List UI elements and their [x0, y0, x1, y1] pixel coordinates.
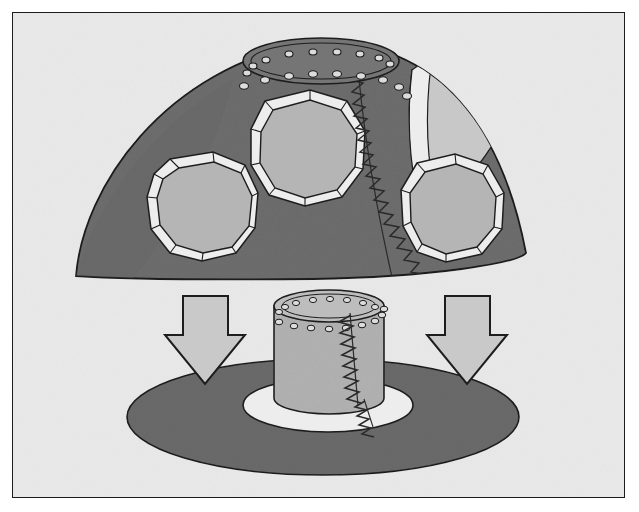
cylinder-top: [274, 290, 384, 322]
window-center: [251, 90, 365, 206]
window-right: [401, 154, 504, 262]
illustration-artwork: [13, 13, 625, 498]
illustration-stage: [0, 0, 639, 512]
illustration-frame: [12, 12, 625, 498]
window-left: [147, 152, 258, 261]
